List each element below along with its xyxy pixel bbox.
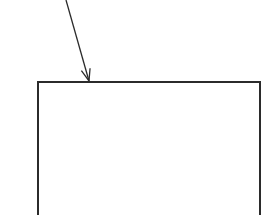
- box-node: [38, 82, 260, 215]
- arrow-connector: [66, 0, 89, 81]
- diagram-canvas: [0, 0, 272, 215]
